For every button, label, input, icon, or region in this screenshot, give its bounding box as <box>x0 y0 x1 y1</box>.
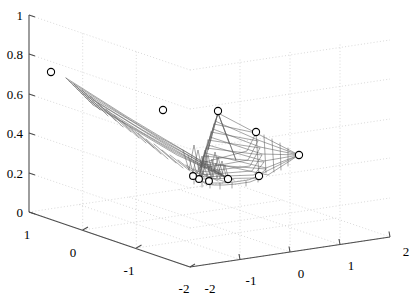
data-point-marker <box>159 106 166 113</box>
data-point-marker <box>47 68 54 75</box>
z-tick-label: 0.8 <box>7 47 23 62</box>
y-tick-label: -1 <box>246 273 257 288</box>
plot-figure: 1 0.8 0.6 0.4 0.2 0 1 0 -1 -2 -2 -1 0 1 … <box>0 0 420 300</box>
z-tick-label: 0.2 <box>7 166 23 181</box>
data-point-marker <box>255 172 262 179</box>
x-axis-tick-labels: 1 0 -1 -2 <box>24 227 190 296</box>
z-axis-tick-labels: 1 0.8 0.6 0.4 0.2 0 <box>7 8 24 220</box>
z-tick-label: 0.4 <box>7 126 24 141</box>
data-point-marker <box>252 128 259 135</box>
data-point-marker <box>214 107 221 114</box>
plot-canvas: 1 0.8 0.6 0.4 0.2 0 1 0 -1 -2 -2 -1 0 1 … <box>0 0 420 300</box>
axis-ticks <box>29 15 390 267</box>
y-tick-label: 0 <box>298 266 305 281</box>
x-tick-label: -1 <box>124 263 135 278</box>
scatter-markers <box>47 68 302 184</box>
z-tick-label: 0.6 <box>7 87 24 102</box>
y-tick-label: -2 <box>205 281 216 296</box>
x-tick-label: -2 <box>179 281 190 296</box>
y-tick-label: 1 <box>348 258 355 273</box>
mesh-surface <box>66 78 299 189</box>
z-tick-label: 0 <box>17 205 24 220</box>
y-tick-label: 2 <box>403 244 410 259</box>
z-tick-label: 1 <box>17 8 24 23</box>
x-tick-label: 1 <box>24 227 31 242</box>
data-point-marker <box>224 175 231 182</box>
y-axis-tick-labels: -2 -1 0 1 2 <box>205 244 410 296</box>
x-axis-line <box>29 212 190 267</box>
x-tick-label: 0 <box>70 245 77 260</box>
data-point-marker <box>190 173 197 180</box>
data-point-marker <box>206 178 213 185</box>
data-point-marker <box>295 151 302 158</box>
